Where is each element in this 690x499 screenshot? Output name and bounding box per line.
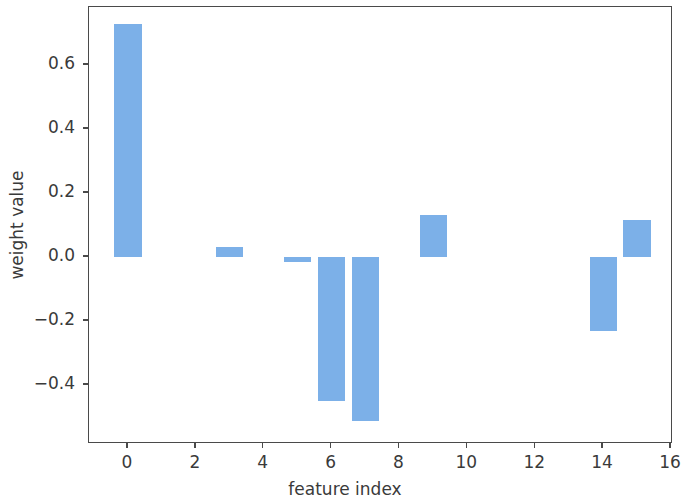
y-axis-label: weight value bbox=[6, 6, 26, 443]
x-tick-label: 0 bbox=[97, 454, 157, 471]
y-tick-mark bbox=[83, 127, 88, 128]
x-tick-mark bbox=[398, 443, 399, 448]
y-tick-mark bbox=[83, 191, 88, 192]
x-tick-label: 4 bbox=[233, 454, 293, 471]
x-tick-label: 14 bbox=[572, 454, 632, 471]
y-tick-mark bbox=[83, 383, 88, 384]
x-tick-mark bbox=[601, 443, 602, 448]
x-tick-mark bbox=[330, 443, 331, 448]
x-tick-label: 10 bbox=[436, 454, 496, 471]
x-tick-label: 8 bbox=[368, 454, 428, 471]
x-tick-mark bbox=[466, 443, 467, 448]
x-tick-label: 6 bbox=[301, 454, 361, 471]
bar bbox=[623, 220, 650, 257]
x-tick-mark bbox=[669, 443, 670, 448]
bar bbox=[590, 257, 617, 331]
y-tick-mark bbox=[83, 63, 88, 64]
bar bbox=[352, 257, 379, 421]
x-tick-mark bbox=[262, 443, 263, 448]
x-tick-label: 12 bbox=[504, 454, 564, 471]
x-tick-mark bbox=[534, 443, 535, 448]
bar bbox=[216, 247, 243, 257]
x-tick-mark bbox=[194, 443, 195, 448]
x-tick-mark bbox=[126, 443, 127, 448]
x-axis-label: feature index bbox=[0, 479, 690, 499]
bar bbox=[420, 215, 447, 257]
y-tick-mark bbox=[83, 319, 88, 320]
y-tick-mark bbox=[83, 255, 88, 256]
x-tick-label: 2 bbox=[165, 454, 225, 471]
bar bbox=[284, 257, 311, 262]
bar bbox=[318, 257, 345, 401]
bar bbox=[114, 24, 141, 257]
x-tick-label: 16 bbox=[640, 454, 690, 471]
plot-area bbox=[88, 6, 672, 443]
